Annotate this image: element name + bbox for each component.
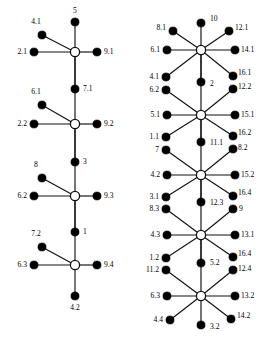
spoke-edge [201, 149, 233, 175]
hub-R4-node [196, 230, 205, 239]
leaf-6.3-node [30, 261, 38, 269]
leaf-11.1-node [197, 138, 205, 146]
leaf-4.3-node [163, 231, 171, 239]
spoke-edge [201, 270, 233, 296]
leaf-16.4b-node [229, 253, 237, 261]
leaf-9.3-label: 9.3 [104, 191, 114, 200]
spoke-edge [42, 247, 75, 265]
leaf-12.3-node [197, 198, 205, 206]
leaf-7.1-label: 7.1 [83, 84, 93, 93]
spoke-edge [166, 209, 201, 235]
leaf-16.4a-label: 16.4 [238, 188, 251, 197]
spoke-edge [166, 235, 201, 258]
leaf-1.2-node [162, 254, 170, 262]
leaf-2.2-node [30, 120, 38, 128]
hub-L1-node [70, 47, 79, 56]
leaf-2.1-node [30, 48, 38, 56]
leaf-1-label: 1 [83, 227, 87, 236]
spoke-edge [166, 175, 201, 197]
leaf-6.1-node [38, 101, 46, 109]
leaf-15.2-label: 15.2 [241, 170, 254, 179]
leaf-8-node [38, 174, 46, 182]
leaf-4.4-label: 4.4 [154, 315, 164, 324]
hub-L2-node [70, 119, 79, 128]
leaf-4.2r-node [163, 171, 171, 179]
leaf-2.1-label: 2.1 [18, 47, 28, 56]
leaf-9.1-label: 9.1 [104, 47, 114, 56]
leaf-4.3-label: 4.3 [151, 230, 161, 239]
leaf-7r-node [162, 146, 170, 154]
leaf-13.1-node [231, 231, 239, 239]
leaf-3-node [71, 158, 79, 166]
spoke-edge [201, 209, 233, 235]
leaf-16.1-label: 16.1 [238, 68, 251, 77]
leaf-5.1-label: 5.1 [151, 110, 161, 119]
leaf-3.1-node [162, 193, 170, 201]
leaf-8.3-node [162, 205, 170, 213]
leaf-14.2-node [227, 315, 235, 323]
leaf-6.2r-node [162, 86, 170, 94]
leaf-9.1-node [93, 48, 101, 56]
leaf-6.1-label: 6.1 [31, 87, 41, 96]
leaf-4.2-node [71, 292, 79, 300]
figure-canvas: 4.12.19.157.16.12.29.2386.29.317.26.39.4… [0, 0, 267, 340]
leaf-12.1-node [225, 27, 233, 35]
leaf-8.1-node [169, 27, 177, 35]
leaf-4.1r-label: 4.1 [150, 72, 160, 81]
leaf-5.1-node [163, 111, 171, 119]
leaf-9.3-node [93, 192, 101, 200]
leaf-12.3-label: 12.3 [210, 198, 223, 207]
leaf-12.2-label: 12.2 [238, 82, 251, 91]
spoke-edge [201, 296, 231, 319]
leaf-8.3-label: 8.3 [150, 204, 160, 213]
spoke-edge [42, 35, 75, 52]
spoke-edge [201, 235, 233, 257]
spoke-edge [201, 89, 233, 115]
spoke-edge [201, 50, 233, 76]
leaf-16.4b-label: 16.4 [238, 249, 251, 258]
leaf-5-label: 5 [73, 6, 77, 15]
leaf-1.1-node [162, 133, 170, 141]
leaf-1.2-label: 1.2 [150, 253, 160, 262]
leaf-8.1-label: 8.1 [157, 23, 167, 32]
leaf-6.1r-node [163, 46, 171, 54]
leaf-9.4-label: 9.4 [104, 260, 114, 269]
leaf-14.1-label: 14.1 [241, 45, 254, 54]
spoke-edge [166, 50, 201, 77]
leaf-6.3-label: 6.3 [18, 260, 28, 269]
leaf-5.2-label: 5.2 [210, 258, 220, 267]
leaf-5-node [71, 18, 79, 26]
leaf-3.1-label: 3.1 [150, 192, 160, 201]
leaf-13.2-label: 13.2 [241, 291, 254, 300]
leaf-8.2-node [229, 145, 237, 153]
spoke-edge [166, 270, 201, 296]
leaf-4.1r-node [162, 73, 170, 81]
hub-R1-node [196, 45, 205, 54]
leaf-3-label: 3 [83, 157, 87, 166]
leaf-2r-label: 2 [210, 79, 214, 88]
leaf-12.4-label: 12.4 [238, 264, 251, 273]
leaf-8-label: 8 [34, 160, 38, 169]
spoke-edge [166, 90, 201, 115]
leaf-3.2-label: 3.2 [210, 322, 220, 331]
leaf-4.2-label: 4.2 [70, 303, 80, 312]
leaf-4.4-node [166, 316, 174, 324]
leaf-7.2-node [38, 243, 46, 251]
leaf-9.2-node [93, 120, 101, 128]
leaf-9.4-node [93, 261, 101, 269]
leaf-16.1-node [229, 72, 237, 80]
hub-L4-node [70, 260, 79, 269]
leaf-6.1r-label: 6.1 [151, 45, 161, 54]
leaf-2r-node [197, 78, 205, 86]
leaf-1-node [71, 228, 79, 236]
leaf-4.1-node [38, 31, 46, 39]
leaf-8.2-label: 8.2 [238, 143, 248, 152]
leaf-3.2-node [197, 321, 205, 329]
spoke-edge [166, 150, 201, 175]
leaf-15.1-node [231, 111, 239, 119]
hub-R2-node [196, 110, 205, 119]
leaf-14.2-label: 14.2 [237, 311, 250, 320]
leaf-6.3r-node [163, 292, 171, 300]
leaf-1.1-label: 1.1 [150, 132, 160, 141]
leaf-7.2-label: 7.2 [31, 229, 41, 238]
